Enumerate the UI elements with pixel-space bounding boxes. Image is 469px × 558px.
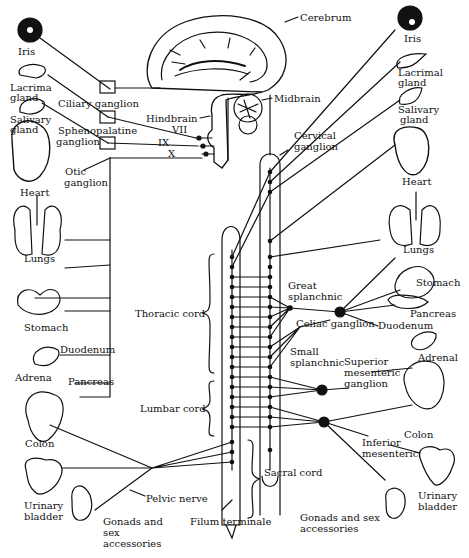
gonads-left-icon (72, 486, 92, 520)
label-pelvic-nerve: Pelvic nerve (146, 493, 208, 504)
gonads-right-icon (386, 488, 405, 518)
label-sup-mesenteric-3: ganglion (344, 378, 388, 389)
label-right-lungs: Lungs (403, 244, 434, 255)
iris-left-icon (18, 18, 42, 42)
label-left-duodenum: Duodenum (60, 344, 115, 355)
label-left-bladder-2: bladder (24, 511, 63, 522)
label-right-gonads-1: Gonads and sex (300, 512, 380, 523)
label-lumbar-cord: Lumbar cord (140, 403, 206, 414)
lungs-right-icon (389, 192, 440, 245)
label-nerve-ix: IX (158, 137, 169, 148)
lacrimal-left-icon (19, 65, 45, 78)
label-left-lacrimal-2: gland (10, 92, 38, 103)
lacrimal-right-icon (397, 54, 426, 68)
spine-rungs (232, 277, 270, 427)
label-right-heart: Heart (402, 176, 431, 187)
label-right-bladder-2: bladder (418, 501, 457, 512)
label-thoracic-cord: Thoracic cord (135, 308, 205, 319)
label-left-stomach: Stomach (24, 322, 68, 333)
label-left-colon: Colon (25, 438, 54, 449)
label-left-gonads-3: accessories (103, 538, 161, 549)
label-right-duodenum: Duodenum (378, 320, 433, 331)
label-left-bladder-1: Urinary (24, 500, 63, 511)
label-great-splanchnic-1: Great (288, 280, 317, 291)
label-right-colon: Colon (404, 429, 433, 440)
salivary-right-icon (399, 88, 422, 105)
label-right-pancreas: Pancreas (410, 308, 456, 319)
label-celiac-ganglion: Celiac ganglion (296, 318, 375, 329)
bladder-right-icon (419, 447, 454, 485)
label-otic-2: ganglion (64, 177, 108, 188)
adrenal-right-icon (411, 332, 436, 350)
ans-diagram: Cerebrum Midbrain Hindbrain VII IX X Cil… (0, 0, 469, 558)
label-right-iris: Iris (404, 33, 421, 44)
label-cervical-2: ganglion (294, 141, 338, 152)
colon-left-icon (26, 392, 63, 442)
label-great-splanchnic-2: splanchnic (288, 291, 342, 302)
heart-right-icon (394, 127, 429, 175)
label-inf-mesenteric-1: Inferior (362, 437, 401, 448)
label-sup-mesenteric-2: mesenteric (344, 367, 400, 378)
label-left-gonads-1: Gonads and (103, 516, 163, 527)
label-right-lacrimal-2: gland (398, 77, 426, 88)
label-sphenopalatine-1: Sphenopalatine (58, 125, 137, 136)
stomach-left-icon (18, 290, 60, 315)
label-left-gonads-2: sex (103, 527, 120, 538)
label-midbrain: Midbrain (274, 93, 321, 104)
label-ciliary-ganglion: Ciliary ganglion (58, 98, 139, 109)
label-right-gonads-2: accessories (300, 523, 358, 534)
label-left-adrenal: Adrena (15, 372, 52, 383)
label-cervical-1: Cervical (294, 130, 336, 141)
label-right-stomach: Stomach (416, 277, 460, 288)
label-sphenopalatine-2: ganglion (56, 136, 100, 147)
label-cerebrum: Cerebrum (300, 12, 351, 23)
label-right-salivary-2: gland (400, 114, 428, 125)
bladder-left-icon (25, 458, 62, 494)
label-left-lungs: Lungs (24, 253, 55, 264)
label-filum-terminale: Filum terminale (190, 516, 271, 527)
label-hindbrain: Hindbrain (146, 113, 198, 124)
label-inf-mesenteric-2: mesenteric (362, 448, 418, 459)
lungs-left-icon (14, 196, 61, 255)
label-sup-mesenteric-1: Superior (344, 356, 388, 367)
label-left-iris: Iris (18, 46, 35, 57)
label-right-adrenal: Adrenal (418, 352, 458, 363)
sacral-brace (248, 440, 260, 518)
label-left-salivary-2: gland (10, 124, 38, 135)
cerebrum-leader (285, 17, 298, 22)
label-sacral-cord: Sacral cord (264, 467, 322, 478)
label-otic-1: Otic (65, 166, 86, 177)
adrenal-left-icon (33, 347, 58, 365)
label-nerve-x: X (168, 148, 175, 159)
iris-right-icon (398, 6, 422, 30)
label-small-splanchnic-2: splanchnic (290, 357, 344, 368)
label-small-splanchnic-1: Small (290, 346, 319, 357)
label-right-bladder-1: Urinary (418, 490, 457, 501)
label-left-heart: Heart (20, 187, 49, 198)
label-nerve-vii: VII (172, 124, 187, 135)
label-left-pancreas: Pancreas (68, 376, 114, 387)
